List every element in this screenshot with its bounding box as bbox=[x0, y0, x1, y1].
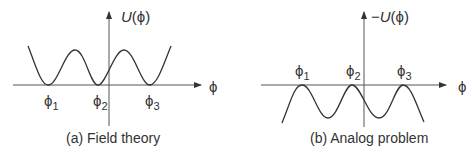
panel-a-potential-curve bbox=[28, 46, 171, 85]
panel-b-caption: (b) Analog problem bbox=[310, 130, 428, 146]
panel-a-y-label-arg: (ϕ) bbox=[132, 8, 150, 25]
panel-a-y-label-func: U bbox=[121, 8, 132, 25]
panel-b-point-1-label: ϕ1 bbox=[295, 62, 310, 82]
panel-b-y-axis-label: −U(ϕ) bbox=[371, 8, 409, 25]
panel-a-point-2-label: ϕ2 bbox=[93, 92, 108, 112]
phi-subscript: 2 bbox=[354, 70, 360, 82]
panel-b-y-label-arg: (ϕ) bbox=[391, 8, 409, 25]
panel-a-point-1-label: ϕ1 bbox=[44, 92, 59, 112]
phi-subscript: 3 bbox=[405, 70, 411, 82]
phi-subscript: 3 bbox=[153, 100, 159, 112]
panel-b-y-label-prefix: − bbox=[371, 8, 380, 25]
panel-a-caption: (a) Field theory bbox=[66, 130, 160, 146]
panel-a-x-axis-label: ϕ bbox=[209, 78, 217, 95]
panel-b-point-3-label: ϕ3 bbox=[397, 62, 412, 82]
panel-a-point-3-label: ϕ3 bbox=[145, 92, 160, 112]
phi-subscript: 2 bbox=[101, 100, 107, 112]
panel-b-x-axis-label: ϕ bbox=[458, 78, 466, 95]
panel-b-inverted-potential-curve bbox=[282, 85, 424, 123]
phi-subscript: 1 bbox=[303, 70, 309, 82]
panel-a-y-axis-label: U(ϕ) bbox=[121, 8, 150, 25]
panel-b-point-2-label: ϕ2 bbox=[346, 62, 361, 82]
phi-subscript: 1 bbox=[52, 100, 58, 112]
panel-b-y-label-func: U bbox=[380, 8, 391, 25]
